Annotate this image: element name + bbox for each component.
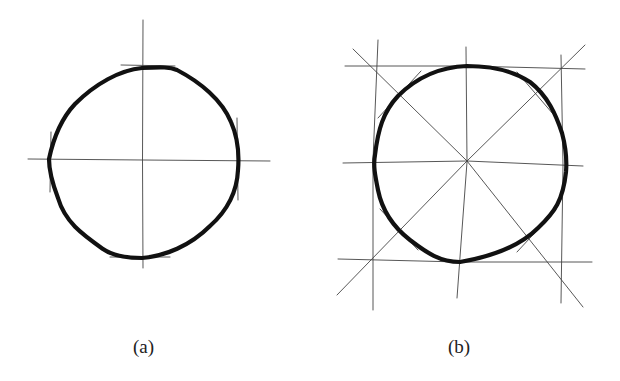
- caption-b: (b): [448, 336, 470, 358]
- square-right: [561, 55, 563, 303]
- caption-a: (a): [133, 336, 154, 358]
- vertical-axis-a: [143, 20, 144, 268]
- freehand-circle-a: [49, 67, 238, 258]
- panel-b-drawing: [337, 40, 592, 310]
- horizontal-axis-a: [28, 159, 270, 161]
- diagonal-tl-br: [353, 49, 583, 307]
- panel-a-drawing: [28, 20, 270, 268]
- figure-canvas: [0, 0, 620, 381]
